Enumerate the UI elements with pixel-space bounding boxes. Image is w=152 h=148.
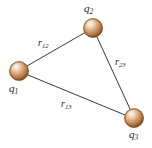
distance-label-r23-subscript: 23	[119, 61, 126, 68]
diagram-canvas	[0, 0, 152, 148]
charge-label-q3-subscript: 3	[135, 134, 139, 142]
distance-line-r13	[28, 75, 125, 115]
charge-sphere-q3	[125, 109, 145, 128]
distance-label-r23: r23	[115, 57, 126, 67]
distance-label-r12: r12	[38, 38, 49, 48]
distance-label-r13-subscript: 13	[65, 103, 72, 110]
charge-label-q1-subscript: 1	[15, 88, 19, 96]
distance-line-r12	[27, 32, 86, 66]
charge-label-q2-symbol: q	[84, 2, 90, 14]
charge-label-q2-subscript: 2	[90, 8, 94, 16]
charge-label-q3: q3	[129, 129, 138, 140]
charge-spheres-group	[10, 19, 145, 128]
charge-label-q1: q1	[9, 83, 18, 94]
distance-label-r13: r13	[61, 99, 72, 109]
charge-label-q2: q2	[84, 3, 93, 14]
charge-sphere-q2	[84, 19, 104, 38]
charge-label-q1-symbol: q	[9, 82, 15, 94]
three-charge-triangle-figure: q1 q2 q3 r12 r23 r13	[0, 0, 152, 148]
distance-line-r23	[97, 37, 130, 109]
charge-sphere-q1	[10, 62, 30, 81]
distance-label-r12-subscript: 12	[42, 42, 49, 49]
charge-label-q3-symbol: q	[129, 128, 135, 140]
